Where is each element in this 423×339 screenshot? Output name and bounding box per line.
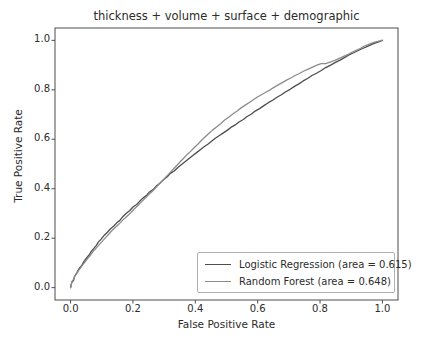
x-tick-label: 1.0 bbox=[362, 303, 402, 314]
legend-label-logistic-regression: Logistic Regression (area = 0.615) bbox=[239, 259, 412, 270]
y-tick-label: 0.4 bbox=[16, 182, 50, 193]
legend-item-random-forest: Random Forest (area = 0.648) bbox=[205, 273, 391, 290]
x-tick-label: 0.8 bbox=[300, 303, 340, 314]
series-line-random-forest bbox=[71, 40, 383, 287]
legend-item-logistic-regression: Logistic Regression (area = 0.615) bbox=[205, 256, 412, 273]
y-tick-label: 0.2 bbox=[16, 231, 50, 242]
y-tick-label: 0.0 bbox=[16, 281, 50, 292]
y-tick-label: 0.6 bbox=[16, 132, 50, 143]
x-tick-label: 0.6 bbox=[238, 303, 278, 314]
legend-label-random-forest: Random Forest (area = 0.648) bbox=[239, 276, 391, 287]
legend-swatch-logistic-regression bbox=[205, 264, 231, 265]
x-tick-label: 0.4 bbox=[175, 303, 215, 314]
y-tick-label: 1.0 bbox=[16, 33, 50, 44]
chart-legend: Logistic Regression (area = 0.615) Rando… bbox=[197, 252, 395, 293]
series-line-logistic-regression bbox=[71, 40, 383, 287]
legend-swatch-random-forest bbox=[205, 281, 231, 282]
x-tick-label: 0.2 bbox=[113, 303, 153, 314]
roc-curve-figure: thickness + volume + surface + demograph… bbox=[0, 0, 423, 339]
x-tick-label: 0.0 bbox=[51, 303, 91, 314]
y-tick-label: 0.8 bbox=[16, 83, 50, 94]
